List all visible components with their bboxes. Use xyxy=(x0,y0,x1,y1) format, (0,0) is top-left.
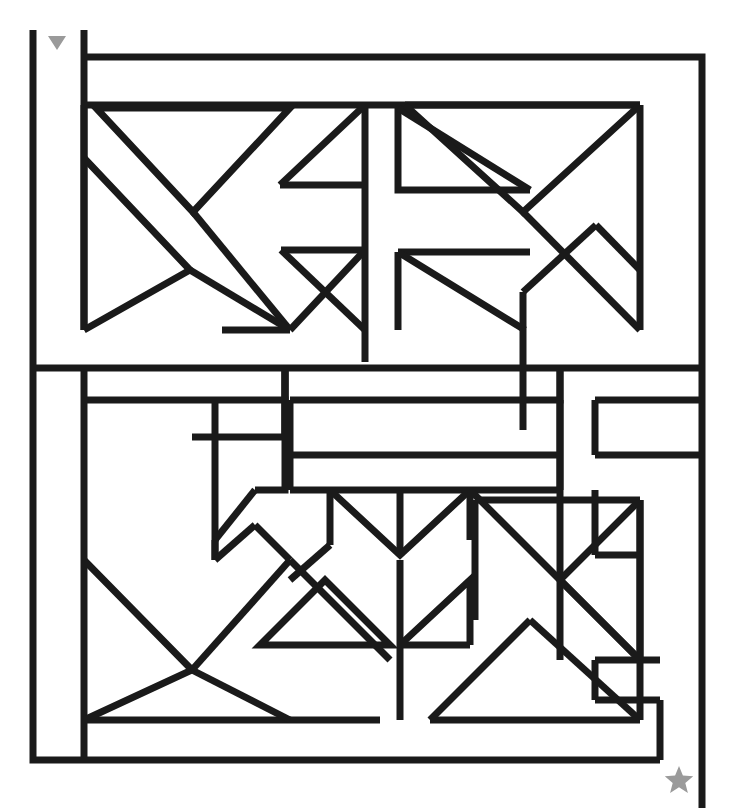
maze-wall-segment xyxy=(84,560,192,720)
maze-wall-segment xyxy=(523,212,640,330)
maze-wall-segment xyxy=(84,400,285,437)
maze-canvas xyxy=(0,0,732,808)
maze-wall-segment xyxy=(530,620,640,720)
maze-wall-segment xyxy=(192,560,290,670)
maze-wall-segment xyxy=(255,368,285,490)
entrance-arrow-icon xyxy=(48,14,66,50)
maze-wall-segment xyxy=(398,252,525,330)
maze-wall-segment xyxy=(405,105,640,212)
exit-star-icon xyxy=(665,766,693,793)
maze-wall-segment xyxy=(190,270,290,330)
maze-page: Start Finish Maze Puzzle xyxy=(0,0,732,808)
maze-wall-segment xyxy=(192,670,290,720)
maze-wall-segment xyxy=(560,500,640,580)
maze-wall-segment xyxy=(280,105,365,185)
maze-wall-segment xyxy=(560,580,640,660)
maze-wall-segment xyxy=(430,620,530,720)
maze-wall-segment xyxy=(523,225,596,292)
maze-wall-segment xyxy=(260,580,390,645)
maze-wall-segment xyxy=(596,225,640,270)
maze-wall-segment xyxy=(400,580,470,645)
maze-wall-segment xyxy=(193,212,290,330)
maze-wall-segment xyxy=(84,158,190,330)
maze-wall-segment xyxy=(255,525,290,560)
maze-wall-group xyxy=(33,30,702,808)
